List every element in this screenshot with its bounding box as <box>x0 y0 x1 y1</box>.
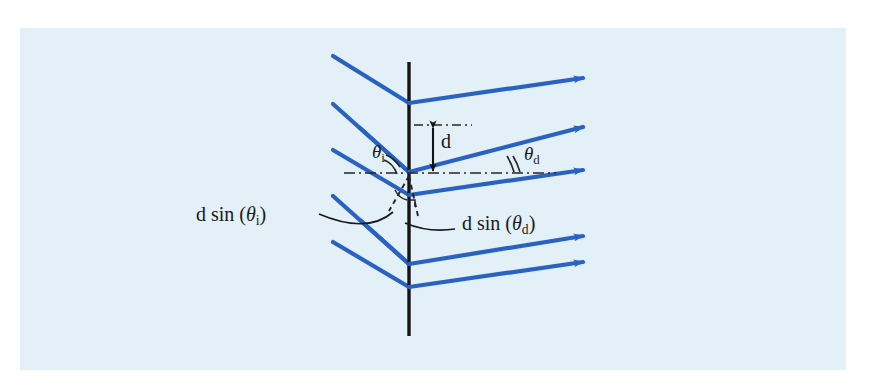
diffracted-ray-2 <box>409 127 583 172</box>
d-sin-theta-i-suffix: ) <box>260 203 267 225</box>
construction-dashed-group <box>389 176 418 216</box>
figure-container: θi θd d d sin (θi) d sin (θd) <box>0 0 875 389</box>
d-sin-theta-i-symbol: θ <box>246 203 256 225</box>
theta-d-symbol: θ <box>524 143 533 164</box>
diffraction-grating-svg <box>0 0 875 389</box>
d-sin-theta-d-subscript: d <box>522 222 529 237</box>
d-sin-theta-i-prefix: d sin ( <box>196 203 246 225</box>
diffracted-ray-4 <box>409 236 583 264</box>
theta-d-subscript: d <box>533 152 539 167</box>
diffracted-ray-group <box>409 78 583 287</box>
d-sin-theta-i-label: d sin (θi) <box>196 204 266 227</box>
theta-i-subscript: i <box>381 150 385 165</box>
d-sin-theta-d-suffix: ) <box>529 212 536 234</box>
theta-i-label: θi <box>372 142 385 165</box>
incident-ray-1 <box>333 56 409 103</box>
diffracted-ray-5 <box>409 262 583 287</box>
incident-ray-5 <box>333 242 409 287</box>
theta-d-label: θd <box>524 144 540 167</box>
grating-spacing-label: d <box>441 131 451 151</box>
theta-d-angle-tick <box>507 156 514 172</box>
incident-ray-ext-2 <box>360 220 409 264</box>
diffracted-ray-1 <box>409 78 583 103</box>
d-sin-theta-d-prefix: d sin ( <box>462 212 512 234</box>
d-sin-theta-d-leader <box>405 223 455 230</box>
d-sin-theta-d-label: d sin (θd) <box>462 213 535 236</box>
theta-i-symbol: θ <box>372 141 381 162</box>
d-sin-theta-d-symbol: θ <box>512 212 522 234</box>
